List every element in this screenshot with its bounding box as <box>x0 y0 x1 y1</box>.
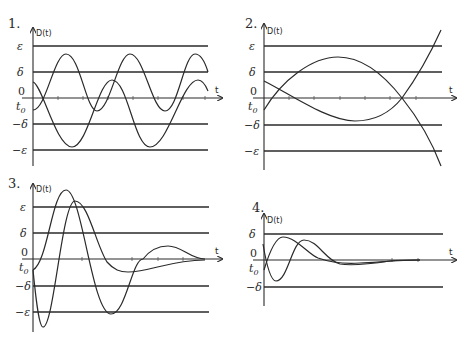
stability-charts: 1. D(t) t ε δ 0 t0 −δ −ε 2. D(t) t <box>0 0 474 348</box>
t-axis-label: t <box>215 246 219 256</box>
curve-a <box>33 190 205 314</box>
delta-label: δ <box>17 66 24 79</box>
t0-label: t0 <box>248 100 258 115</box>
panel-4: 4. D(t) t δ 0 t0 −δ <box>246 200 456 306</box>
panel-1: 1. D(t) t ε δ 0 t0 −δ −ε <box>8 16 222 166</box>
y-axis-label: D(t) <box>36 29 52 38</box>
t0-label: t0 <box>19 261 29 276</box>
delta-label: δ <box>20 227 27 240</box>
t0-label: t0 <box>249 262 259 277</box>
panel-number: 3. <box>8 176 20 191</box>
zero-label: 0 <box>250 85 257 98</box>
neg-epsilon-label: −ε <box>12 144 27 157</box>
panel-number: 4. <box>252 200 264 215</box>
neg-delta-label: −δ <box>15 280 31 293</box>
curve-b <box>33 54 208 111</box>
epsilon-label: ε <box>17 40 23 53</box>
neg-epsilon-label: −ε <box>244 145 259 158</box>
neg-delta-label: −δ <box>12 118 28 131</box>
delta-label: δ <box>249 228 256 241</box>
neg-epsilon-label: −ε <box>15 306 30 319</box>
zero-label: 0 <box>21 246 28 259</box>
panel-number: 2. <box>245 16 257 31</box>
panel-3: 3. D(t) t ε δ 0 t0 −δ −ε <box>8 176 222 332</box>
t-axis-label: t <box>449 247 453 257</box>
curve-a <box>264 57 441 166</box>
y-axis-label: D(t) <box>267 216 283 225</box>
curve-b <box>264 30 441 121</box>
y-axis-label: D(t) <box>267 27 283 36</box>
t-axis-label: t <box>215 85 219 95</box>
t0-label: t0 <box>16 100 26 115</box>
neg-delta-label: −δ <box>246 281 262 294</box>
epsilon-label: ε <box>249 40 255 53</box>
panel-number: 1. <box>8 16 20 31</box>
t-axis-label: t <box>449 85 453 95</box>
curve-a <box>33 80 208 147</box>
curve-a <box>264 237 420 270</box>
panel-2: 2. D(t) t ε δ 0 t0 −δ −ε <box>244 16 456 170</box>
epsilon-label: ε <box>20 201 26 214</box>
neg-delta-label: −δ <box>244 119 260 132</box>
zero-label: 0 <box>18 85 25 98</box>
y-axis-label: D(t) <box>36 185 52 194</box>
zero-label: 0 <box>250 247 257 260</box>
delta-label: δ <box>249 66 256 79</box>
